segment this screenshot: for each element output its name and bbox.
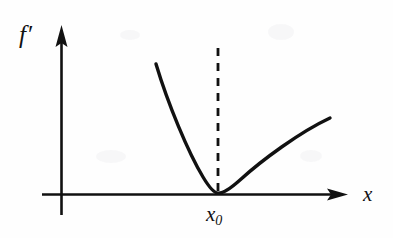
x-axis [42, 189, 348, 201]
y-axis [56, 25, 68, 215]
y-axis-label: f′ [19, 22, 32, 47]
critical-point-variable: x [206, 202, 215, 226]
f-prime-curve [156, 64, 330, 193]
graph-drawing [0, 0, 393, 238]
figure-canvas: f′ x x0 [0, 0, 393, 238]
x-axis-label: x [363, 184, 372, 205]
critical-point-label: x0 [206, 204, 222, 228]
critical-point-subscript: 0 [215, 213, 222, 228]
